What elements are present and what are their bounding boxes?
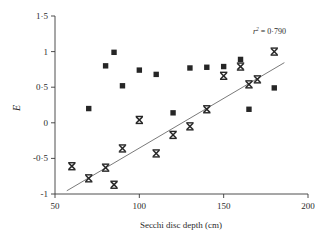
y-tick-label: 1 bbox=[44, 47, 49, 57]
data-point-square bbox=[170, 110, 175, 115]
y-tick-label: 1·5 bbox=[36, 11, 48, 21]
y-tick-label: 0·5 bbox=[36, 82, 48, 92]
data-point-cross bbox=[245, 81, 252, 88]
data-point-square bbox=[246, 107, 251, 112]
r-squared-annotation: r2 = 0·790 bbox=[253, 26, 286, 36]
data-point-cross bbox=[119, 145, 126, 152]
data-point-square bbox=[103, 63, 108, 68]
data-point-cross bbox=[203, 106, 210, 113]
data-point-square bbox=[221, 64, 226, 69]
axes-group bbox=[55, 16, 308, 194]
data-point-square bbox=[120, 83, 125, 88]
data-point-square bbox=[238, 57, 243, 62]
data-point-square bbox=[204, 65, 209, 70]
data-point-cross bbox=[102, 164, 109, 171]
x-tick-label: 50 bbox=[51, 201, 61, 211]
data-point-cross bbox=[153, 150, 160, 157]
data-point-cross bbox=[254, 76, 261, 83]
x-tick-label: 150 bbox=[217, 201, 231, 211]
y-axis-title: E bbox=[11, 105, 22, 112]
data-point-square bbox=[154, 72, 159, 77]
data-point-cross bbox=[110, 181, 117, 188]
data-point-cross bbox=[220, 72, 227, 79]
data-point-cross bbox=[237, 63, 244, 70]
data-point-square bbox=[137, 67, 142, 72]
x-axis-ticks: 50100150200 bbox=[51, 194, 316, 211]
y-tick-label: -0·5 bbox=[33, 153, 48, 163]
series-squares bbox=[86, 50, 277, 116]
r-squared-value: = 0·790 bbox=[259, 27, 286, 36]
series-crosses bbox=[68, 48, 278, 188]
data-point-square bbox=[272, 85, 277, 90]
data-point-cross bbox=[271, 48, 278, 55]
data-point-cross bbox=[186, 123, 193, 130]
y-axis-ticks: -1-0·500·511·5 bbox=[33, 11, 55, 199]
data-point-cross bbox=[85, 175, 92, 182]
data-point-square bbox=[111, 50, 116, 55]
data-point-cross bbox=[169, 131, 176, 138]
y-tick-label: 0 bbox=[44, 118, 49, 128]
scatter-plot: -1-0·500·511·5 50100150200 Secchi disc d… bbox=[0, 0, 330, 239]
x-tick-label: 100 bbox=[133, 201, 147, 211]
data-point-square bbox=[187, 65, 192, 70]
data-point-square bbox=[86, 106, 91, 111]
x-axis-title: Secchi disc depth (cm) bbox=[140, 220, 222, 230]
chart-figure: -1-0·500·511·5 50100150200 Secchi disc d… bbox=[0, 0, 330, 239]
y-tick-label: -1 bbox=[41, 189, 49, 199]
data-point-cross bbox=[68, 163, 75, 170]
x-tick-label: 200 bbox=[301, 201, 315, 211]
data-point-cross bbox=[136, 116, 143, 123]
